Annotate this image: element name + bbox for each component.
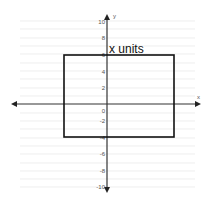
coordinate-plane: y x 10 8 6 4 2 0 -2 -4 -6 -8 -10 x units (0, 0, 210, 207)
y-axis-label: y (113, 13, 116, 19)
x-axis-label: x (197, 94, 200, 100)
svg-text:10: 10 (98, 19, 105, 25)
svg-text:-10: -10 (96, 184, 105, 190)
svg-text:4: 4 (102, 69, 106, 75)
svg-text:-8: -8 (100, 168, 106, 174)
x-axis-left-arrow-icon (11, 101, 17, 107)
svg-text:-2: -2 (100, 118, 106, 124)
svg-text:-4: -4 (100, 135, 106, 141)
dimension-label: x units (109, 42, 144, 56)
x-axis-right-arrow-icon (195, 101, 201, 107)
svg-text:-6: -6 (100, 151, 106, 157)
